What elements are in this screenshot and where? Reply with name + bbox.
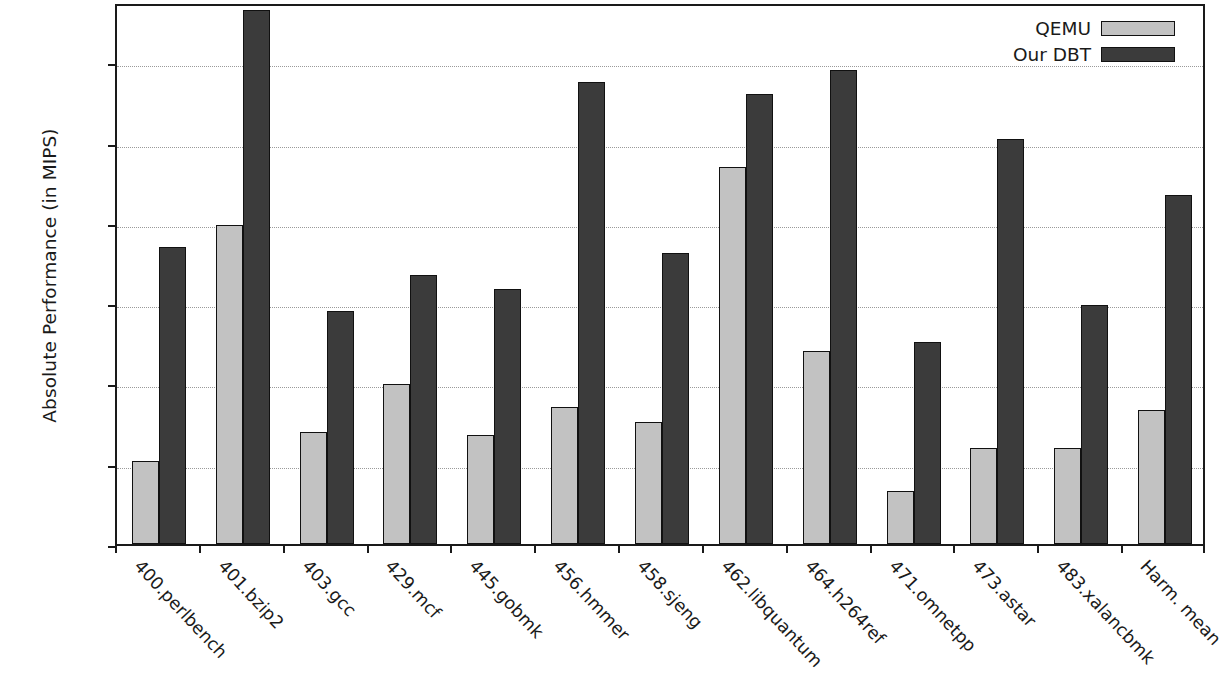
bar-qemu (1054, 448, 1081, 544)
x-axis-tick-label: 429.mcf (382, 556, 446, 622)
bar-qemu (300, 432, 327, 544)
bar-qemu (132, 461, 159, 544)
bar-our-dbt (830, 70, 857, 544)
bar-qemu (1138, 410, 1165, 544)
x-axis-tick-label: 458.sjeng (633, 556, 706, 632)
x-axis-tick-mark (1037, 546, 1039, 553)
plot-inner (117, 6, 1203, 544)
bar-our-dbt (1165, 195, 1192, 544)
bar-our-dbt (327, 311, 354, 544)
x-axis-tick-mark (450, 546, 452, 553)
x-axis-tick-mark (618, 546, 620, 553)
x-axis-tick-label: Harm. mean (1136, 556, 1225, 649)
legend: QEMU Our DBT (1013, 18, 1175, 65)
y-axis-title: Absolute Performance (in MIPS) (39, 6, 60, 546)
bar-our-dbt (243, 10, 270, 544)
bar-chart-figure: Absolute Performance (in MIPS) 020040060… (0, 0, 1226, 682)
y-axis-tick-mark (108, 225, 115, 227)
x-axis-tick-label: 401.bzip2 (214, 556, 288, 633)
gridline (117, 387, 1203, 388)
x-axis-tick-mark (1121, 546, 1123, 553)
bar-qemu (887, 491, 914, 544)
x-axis-tick-mark (115, 546, 117, 553)
y-axis-tick-mark (108, 305, 115, 307)
x-axis-tick-mark (283, 546, 285, 553)
x-axis-tick-mark (199, 546, 201, 553)
x-axis-tick-mark (953, 546, 955, 553)
x-axis-tick-mark (702, 546, 704, 553)
bar-qemu (383, 384, 410, 544)
x-axis-tick-label: 464.h264ref (801, 556, 889, 648)
gridline (117, 147, 1203, 148)
legend-label-our-dbt: Our DBT (1013, 44, 1091, 65)
x-axis-tick-label: 445.gobmk (466, 556, 548, 642)
x-axis-tick-mark (870, 546, 872, 553)
bar-qemu (970, 448, 997, 544)
legend-swatch-our-dbt (1101, 47, 1175, 62)
bar-qemu (551, 407, 578, 544)
x-axis-tick-mark (1203, 546, 1205, 553)
bar-our-dbt (410, 275, 437, 544)
gridline (117, 66, 1203, 67)
y-axis-tick-mark (108, 145, 115, 147)
y-axis-tick-mark (108, 64, 115, 66)
bar-our-dbt (494, 289, 521, 544)
legend-item-our-dbt: Our DBT (1013, 44, 1175, 65)
x-axis-tick-mark (534, 546, 536, 553)
legend-label-qemu: QEMU (1035, 18, 1091, 39)
bar-qemu (635, 422, 662, 544)
legend-swatch-qemu (1101, 21, 1175, 36)
bar-our-dbt (914, 342, 941, 544)
bar-qemu (467, 435, 494, 544)
x-axis-tick-label: 471.omnetpp (885, 556, 980, 656)
gridline (117, 227, 1203, 228)
x-axis-tick-label: 403.gcc (298, 556, 360, 620)
plot-area: QEMU Our DBT (115, 4, 1205, 546)
gridline (117, 307, 1203, 308)
x-axis-tick-label: 473.astar (969, 556, 1041, 631)
x-axis-tick-label: 456.hmmer (550, 556, 634, 644)
bar-qemu (216, 225, 243, 544)
x-axis-tick-mark (367, 546, 369, 553)
x-axis-tick-mark (786, 546, 788, 553)
bar-our-dbt (578, 82, 605, 544)
bar-qemu (803, 351, 830, 544)
y-axis-tick-mark (108, 546, 115, 548)
bar-our-dbt (746, 94, 773, 544)
bar-our-dbt (662, 253, 689, 544)
bar-our-dbt (997, 139, 1024, 544)
y-axis-tick-mark (108, 385, 115, 387)
y-axis-tick-mark (108, 466, 115, 468)
bar-our-dbt (1081, 305, 1108, 544)
legend-item-qemu: QEMU (1013, 18, 1175, 39)
bar-our-dbt (159, 247, 186, 544)
bar-qemu (719, 167, 746, 544)
